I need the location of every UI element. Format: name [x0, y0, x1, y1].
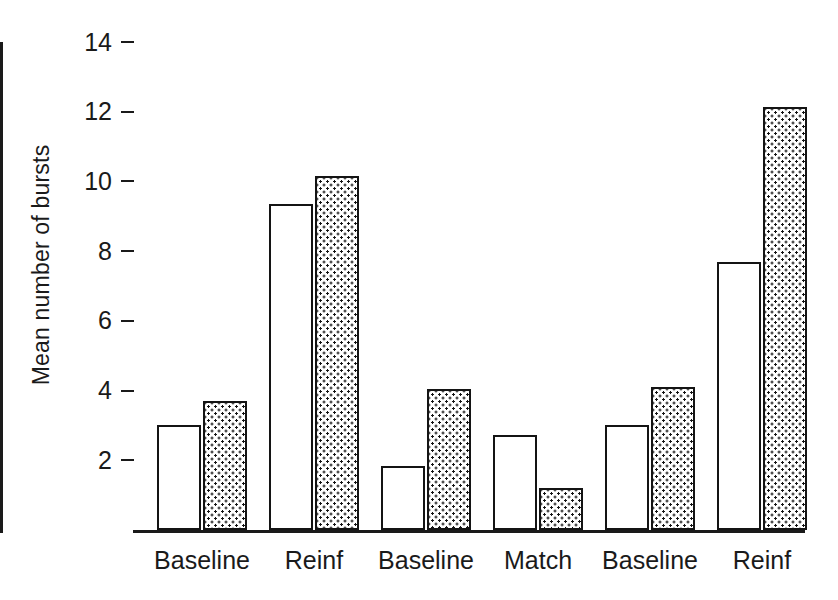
bar-match-open-3	[493, 435, 537, 530]
bar-reinf-open-1	[269, 204, 313, 530]
y-tick-label: 8	[68, 238, 112, 264]
y-axis-line	[0, 42, 3, 533]
y-tick-label: 6	[68, 308, 112, 334]
y-tick-label: 4	[68, 378, 112, 404]
y-tick-label-text: 2	[98, 448, 112, 473]
bar-baseline-open-2	[381, 466, 425, 530]
bar-reinf-open-5	[717, 262, 761, 530]
y-tick-label-text: 8	[98, 239, 112, 264]
bar-baseline-stippled-4	[651, 387, 695, 530]
bar-match-stippled-3	[539, 488, 583, 530]
bar-reinf-stippled-5	[763, 107, 807, 531]
x-axis-label-5: Reinf	[682, 548, 838, 573]
x-axis-line	[133, 530, 805, 533]
y-tick-label: 10	[68, 168, 112, 194]
y-tick-label-text: 14	[84, 30, 112, 55]
y-tick-label-text: 10	[84, 169, 112, 194]
bar-baseline-open-0	[157, 425, 201, 530]
plot-area	[133, 42, 805, 530]
y-tick-label: 14	[68, 29, 112, 55]
bar-chart: Mean number of bursts 2468101214 Baselin…	[0, 0, 838, 600]
y-tick-label-text: 12	[84, 99, 112, 124]
bar-reinf-stippled-1	[315, 176, 359, 530]
y-tick-label: 2	[68, 447, 112, 473]
bar-baseline-open-4	[605, 425, 649, 530]
y-axis-title: Mean number of bursts	[18, 0, 64, 530]
y-tick-label-text: 4	[98, 378, 112, 403]
bar-baseline-stippled-2	[427, 389, 471, 530]
y-tick-label-text: 6	[98, 308, 112, 333]
y-tick-label: 12	[68, 99, 112, 125]
bar-baseline-stippled-0	[203, 401, 247, 530]
